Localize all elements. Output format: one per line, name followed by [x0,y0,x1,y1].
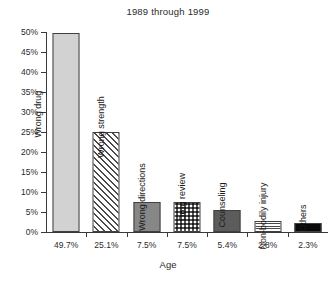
x-axis-tick [127,232,128,237]
x-axis-tick [247,232,248,237]
y-axis-tick-label: 40% [21,67,38,77]
y-axis-tick-label: 10% [21,187,38,197]
bar-category-label: Wrong drug [34,90,43,137]
y-axis-tick-label: 0% [26,227,38,237]
x-axis-value-label: 49.7% [54,240,78,250]
bar-slot: Wrong drug [46,32,86,232]
bar-slot: Counseling [207,32,247,232]
x-axis-tick [288,232,289,237]
bar-slot: Non-bodily injury [247,32,287,232]
bar-category-label: Wrong strength [97,96,106,157]
bar-category-label: Counseling [218,183,227,228]
x-axis-value-label: 2.8% [258,240,277,250]
x-axis-value-label: 5.4% [218,240,237,250]
bar-chart-figure: 1989 through 1999 0%5%10%15%20%25%30%35%… [0,0,336,284]
bar-category-label: Others [299,204,308,231]
x-axis-title: Age [0,259,336,270]
x-axis-tick [167,232,168,237]
chart-title: 1989 through 1999 [0,6,336,17]
x-axis-line [46,232,328,233]
x-axis-value-label: 25.1% [94,240,118,250]
x-axis-value-label: 2.3% [298,240,317,250]
bar-slot: Others [288,32,328,232]
plot-area: 0%5%10%15%20%25%30%35%40%45%50% Wrong dr… [46,32,328,232]
bar-category-label: Wrong directions [138,163,147,230]
y-axis-tick-label: 15% [21,167,38,177]
bar-slot: Wrong strength [86,32,126,232]
bar-category-label: Drug review [178,173,187,221]
bar [53,33,80,232]
y-axis-tick-label: 5% [26,207,38,217]
bar-slot: Wrong directions [127,32,167,232]
y-axis-tick-label: 20% [21,147,38,157]
x-axis-value-label: 7.5% [137,240,156,250]
y-axis-tick-label: 50% [21,27,38,37]
bar-slot: Drug review [167,32,207,232]
y-axis-tick [41,232,46,233]
x-axis-tick [207,232,208,237]
y-axis-tick-label: 45% [21,47,38,57]
x-axis-tick [86,232,87,237]
x-axis-value-label: 7.5% [177,240,196,250]
